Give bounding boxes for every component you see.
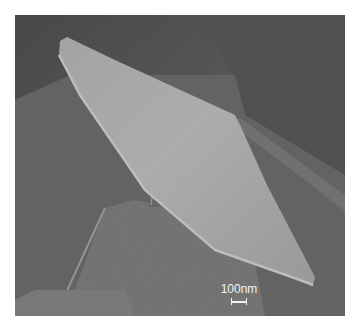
sem-micrograph: 100nm [15, 15, 345, 316]
micrograph-scene [15, 15, 345, 316]
scale-bar-line [231, 298, 247, 305]
scale-bar-label: 100nm [219, 283, 259, 296]
scale-bar: 100nm [219, 283, 259, 305]
noise-overlay [15, 15, 345, 316]
